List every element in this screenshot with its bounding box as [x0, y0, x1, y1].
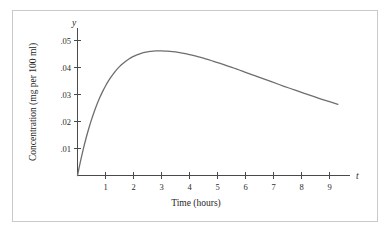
y-tick-label-2: .03 [60, 90, 71, 100]
x-tick-label-8: 9 [327, 182, 331, 192]
x-tick-label-0: 1 [103, 182, 107, 192]
y-axis-variable-label: y [71, 18, 77, 28]
x-tick-label-4: 5 [215, 182, 219, 192]
y-tick-label-1: .02 [60, 117, 71, 127]
y-tick-label-3: .04 [60, 63, 71, 73]
y-axis-title: Concentration (mg per 100 ml) [28, 43, 39, 161]
chart-canvas: .01 .02 .03 .04 .05 1 2 3 4 5 6 7 8 9 y … [0, 0, 391, 233]
x-tick-label-1: 2 [131, 182, 135, 192]
x-tick-label-6: 7 [271, 182, 275, 192]
figure-root: .01 .02 .03 .04 .05 1 2 3 4 5 6 7 8 9 y … [0, 0, 391, 233]
y-tick-label-0: .01 [60, 144, 71, 154]
x-axis-variable-label: t [356, 171, 359, 181]
x-tick-label-7: 8 [299, 182, 303, 192]
y-tick-label-4: .05 [60, 36, 71, 46]
x-axis-title: Time (hours) [171, 198, 221, 209]
concentration-curve [78, 51, 338, 176]
x-tick-label-5: 6 [243, 182, 247, 192]
x-tick-label-2: 3 [159, 182, 163, 192]
x-tick-label-3: 4 [187, 182, 192, 192]
